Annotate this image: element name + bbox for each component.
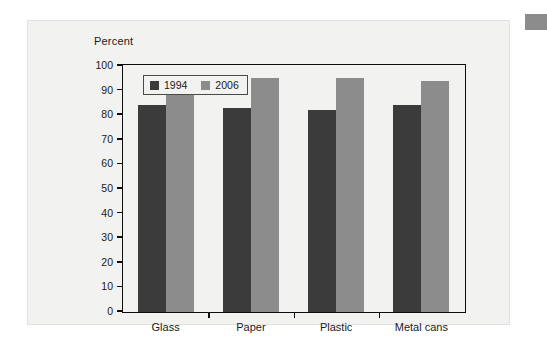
- x-axis-label-plastic: Plastic: [320, 321, 352, 333]
- x-axis-label-paper: Paper: [236, 321, 265, 333]
- x-axis-separator-tick: [294, 312, 296, 318]
- plot-inner: 0102030405060708090100GlassPaperPlasticM…: [123, 65, 465, 312]
- bar-group: [379, 65, 464, 312]
- y-axis-tick: 10: [63, 280, 123, 292]
- y-axis-tick: 100: [63, 59, 123, 71]
- legend-label-1994: 1994: [164, 79, 187, 91]
- bar-1994-glass: [138, 105, 166, 312]
- y-axis-tick: 70: [63, 133, 123, 145]
- y-axis-tick-label: 50: [101, 182, 117, 194]
- y-axis-tick-label: 30: [101, 231, 117, 243]
- x-axis-label-glass: Glass: [152, 321, 180, 333]
- y-axis-tick: 90: [63, 84, 123, 96]
- y-axis-tick: 30: [63, 231, 123, 243]
- bar-group: [208, 65, 293, 312]
- legend-label-2006: 2006: [215, 79, 238, 91]
- legend-item-2006: 2006: [201, 79, 238, 91]
- bar-2006-glass: [166, 81, 194, 312]
- y-axis-tick-label: 40: [101, 207, 117, 219]
- figure-panel: Percent 0102030405060708090100GlassPaper…: [27, 20, 510, 325]
- y-axis-title: Percent: [94, 35, 133, 47]
- plot-area: 0102030405060708090100GlassPaperPlasticM…: [122, 64, 466, 313]
- corner-marker: [525, 14, 547, 30]
- y-axis-tick-label: 20: [101, 256, 117, 268]
- y-axis-tick: 60: [63, 157, 123, 169]
- x-axis-separator-tick: [208, 312, 210, 318]
- chart-legend: 1994 2006: [143, 75, 248, 95]
- y-axis-tick: 0: [63, 305, 123, 317]
- bar-2006-plastic: [336, 78, 364, 312]
- y-axis-tick: 20: [63, 256, 123, 268]
- y-axis-tick-label: 10: [101, 280, 117, 292]
- bar-group: [294, 65, 379, 312]
- legend-swatch-1994-icon: [150, 81, 159, 90]
- x-axis-label-metal-cans: Metal cans: [395, 321, 448, 333]
- bar-2006-metal-cans: [421, 81, 449, 312]
- y-axis-tick: 80: [63, 108, 123, 120]
- y-axis-tick-label: 90: [101, 84, 117, 96]
- bar-1994-metal-cans: [393, 105, 421, 312]
- y-axis-tick-label: 60: [101, 157, 117, 169]
- y-axis-tick: 50: [63, 182, 123, 194]
- bar-1994-plastic: [308, 110, 336, 312]
- bar-2006-paper: [251, 78, 279, 312]
- bar-group: [123, 65, 208, 312]
- bar-1994-paper: [223, 108, 251, 312]
- x-axis-separator-tick: [379, 312, 381, 318]
- y-axis-tick-label: 80: [101, 108, 117, 120]
- y-axis-tick-label: 100: [95, 59, 117, 71]
- y-axis-tick: 40: [63, 207, 123, 219]
- legend-item-1994: 1994: [150, 79, 187, 91]
- y-axis-tick-label: 0: [107, 305, 117, 317]
- legend-swatch-2006-icon: [201, 81, 210, 90]
- y-axis-tick-label: 70: [101, 133, 117, 145]
